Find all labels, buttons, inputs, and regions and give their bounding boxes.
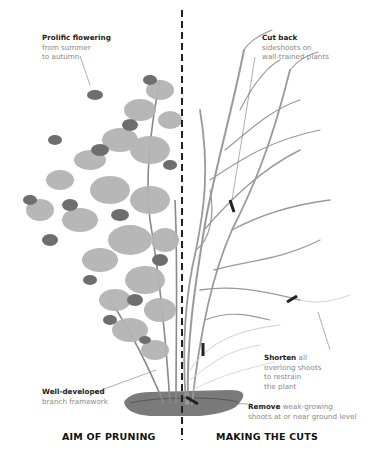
foliage: [23, 75, 182, 360]
annotation-well-developed: Well-developed branch framework: [42, 387, 108, 406]
annotation-prolific-flowering: Prolific flowering from summer to autumn: [42, 33, 111, 62]
annotation-cut-back: Cut back sideshoots on wall-trained plan…: [262, 33, 329, 62]
left-panel-title: AIM OF PRUNING: [62, 431, 156, 442]
annotation-remove: Remove weak-growing shoots at or near gr…: [248, 402, 357, 421]
annotation-shorten: Shorten all overlong shoots to restrain …: [264, 353, 321, 391]
bare-branches: [184, 30, 350, 404]
pruning-diagram: Prolific flowering from summer to autumn…: [0, 0, 371, 464]
right-panel-title: MAKING THE CUTS: [216, 431, 318, 442]
